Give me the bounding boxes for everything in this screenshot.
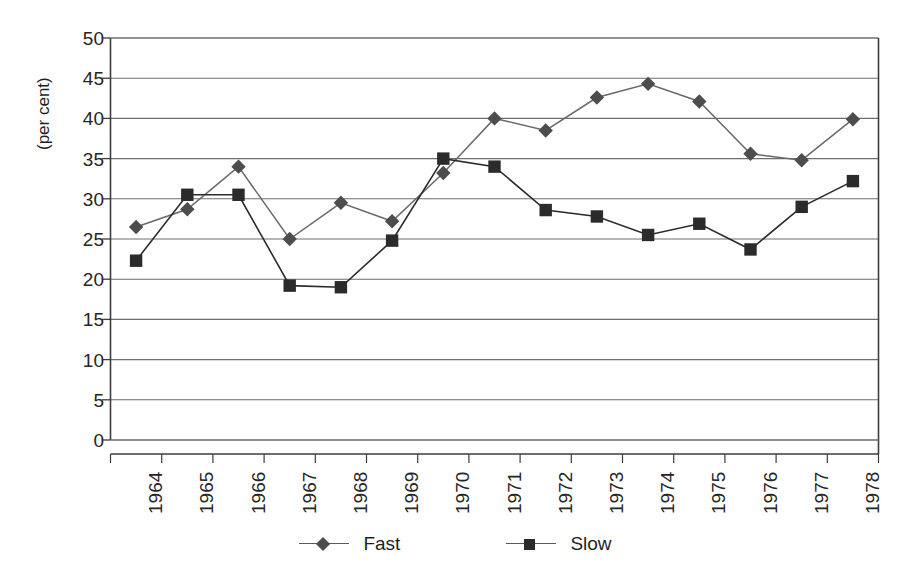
data-point-marker-diamond [590,90,604,104]
data-point-marker-diamond [795,153,809,167]
legend-item-label: Fast [363,534,400,553]
x-axis-tick-label: 1976 [760,472,782,514]
data-point-marker-square [744,243,756,255]
x-axis-tick-label: 1974 [657,472,679,514]
data-point-marker-square [591,210,603,222]
x-axis-tick-label: 1967 [299,472,321,514]
x-axis-tick-label: 1970 [452,472,474,514]
data-point-marker-diamond [846,112,860,126]
legend-marker-sample [299,537,349,551]
data-point-marker-square [284,279,296,291]
x-axis-tick-label: 1968 [350,472,372,514]
legend-item-slow[interactable]: Slow [506,534,611,553]
x-axis-tick-label: 1978 [862,472,884,514]
legend-item-label: Slow [570,534,611,553]
x-axis-tick-label: 1972 [555,472,577,514]
data-point-marker-square [386,234,398,246]
data-point-marker-diamond [283,232,297,246]
data-point-marker-square [540,204,552,216]
x-axis-tick-label: 1973 [606,472,628,514]
legend-marker-sample [506,537,556,551]
x-axis-tick-label: 1964 [145,472,167,514]
data-point-marker-square [847,175,859,187]
data-point-marker-square [642,229,654,241]
x-axis-tick-label: 1977 [811,472,833,514]
data-point-marker-square [796,201,808,213]
data-point-marker-square [335,281,347,293]
square-icon [524,539,535,550]
data-point-marker-diamond [334,196,348,210]
data-point-marker-square [488,160,500,172]
x-axis-tick-label: 1965 [196,472,218,514]
data-point-marker-diamond [539,123,553,137]
data-point-marker-square [437,152,449,164]
series-line-slow [136,159,853,288]
diamond-icon [316,537,330,551]
x-axis-tick-label: 1975 [708,472,730,514]
data-point-marker-square [181,189,193,201]
x-axis-tick-label: 1966 [248,472,270,514]
data-point-marker-square [693,218,705,230]
data-point-marker-square [130,255,142,267]
chart-legend: FastSlow [0,534,911,553]
data-point-marker-diamond [641,77,655,91]
x-axis-tick-label: 1971 [504,472,526,514]
x-axis-tick-label: 1969 [401,472,423,514]
data-point-marker-square [232,189,244,201]
line-chart: (per cent) 50454035302520151050 19641965… [0,0,911,576]
data-point-marker-diamond [129,220,143,234]
legend-item-fast[interactable]: Fast [299,534,400,553]
